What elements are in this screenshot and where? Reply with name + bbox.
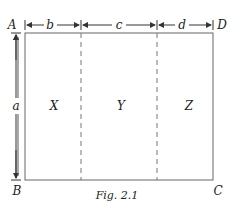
figure-caption: Fig. 2.1 [95, 189, 139, 202]
corner-label-b: B [12, 184, 22, 198]
region-label-y: Y [117, 99, 126, 113]
corner-label-a: A [7, 18, 17, 32]
corner-label-d: D [216, 18, 227, 32]
width-label-d: d [178, 18, 186, 32]
width-label-c: c [116, 18, 123, 32]
region-label-z: Z [184, 99, 194, 113]
figure-2-1-diagram: A D B C b c d a X Y Z Fig. 2.1 [0, 0, 240, 210]
corner-label-c: C [213, 184, 222, 198]
width-label-b: b [46, 18, 54, 32]
height-label-a: a [12, 99, 19, 113]
region-label-x: X [49, 99, 59, 113]
